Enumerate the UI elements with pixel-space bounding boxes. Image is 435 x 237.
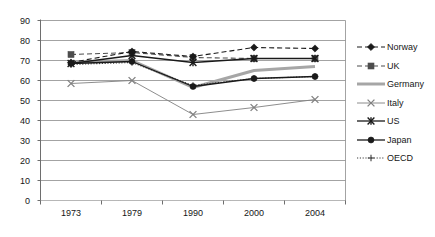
legend-swatch-uk-icon bbox=[356, 59, 386, 73]
legend-swatch-norway-icon bbox=[356, 40, 386, 54]
data-point-marker bbox=[368, 63, 374, 69]
legend-label: Japan bbox=[386, 135, 412, 145]
x-tick-label: 1973 bbox=[61, 208, 81, 218]
legend-item-oecd[interactable]: OECD bbox=[356, 149, 435, 168]
legend-item-uk[interactable]: UK bbox=[356, 57, 435, 76]
x-tick-label: 1990 bbox=[183, 208, 203, 218]
legend-label: Germany bbox=[386, 79, 424, 89]
data-point-marker bbox=[368, 155, 374, 161]
x-tick-label: 1979 bbox=[122, 208, 142, 218]
legend-swatch-italy-icon bbox=[356, 96, 386, 110]
legend-swatch-us-icon bbox=[356, 114, 386, 128]
legend-label: Italy bbox=[386, 98, 404, 108]
legend-item-germany[interactable]: Germany bbox=[356, 75, 435, 94]
x-tick-label: 2000 bbox=[244, 208, 264, 218]
legend-swatch-germany-icon bbox=[356, 77, 386, 91]
x-axis: 19731979199020002004 bbox=[0, 0, 350, 237]
line-chart: 9080706050403020100 19731979199020002004 bbox=[0, 0, 350, 237]
legend-item-norway[interactable]: Norway bbox=[356, 38, 435, 57]
data-point-marker bbox=[368, 137, 374, 143]
data-point-marker bbox=[367, 44, 374, 51]
legend-label: OECD bbox=[386, 153, 413, 163]
legend-label: UK bbox=[386, 61, 400, 71]
chart-legend: NorwayUKGermanyItalyUSJapanOECD bbox=[356, 38, 435, 168]
legend-label: Norway bbox=[386, 42, 418, 52]
chart-figure: 9080706050403020100 19731979199020002004… bbox=[0, 0, 435, 237]
legend-swatch-oecd-icon bbox=[356, 151, 386, 165]
legend-label: US bbox=[386, 116, 400, 126]
legend-item-italy[interactable]: Italy bbox=[356, 94, 435, 113]
legend-item-us[interactable]: US bbox=[356, 112, 435, 131]
x-tick-label: 2004 bbox=[305, 208, 325, 218]
legend-swatch-japan-icon bbox=[356, 133, 386, 147]
legend-item-japan[interactable]: Japan bbox=[356, 131, 435, 150]
